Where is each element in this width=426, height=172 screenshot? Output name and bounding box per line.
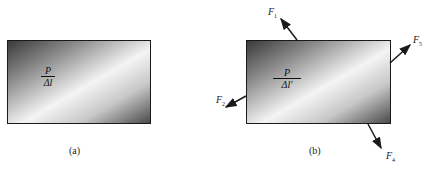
force-arrows (0, 0, 426, 172)
force-arrow-f1 (281, 19, 297, 40)
force-label-f4: F4 (386, 150, 395, 163)
force-label-f2: F2 (216, 94, 225, 107)
force-arrow-f4 (368, 124, 381, 148)
force-arrow-f2 (226, 96, 246, 107)
force-label-f5: F5 (413, 34, 422, 47)
force-label-f1: F1 (268, 6, 277, 19)
force-arrow-f5 (390, 45, 410, 63)
